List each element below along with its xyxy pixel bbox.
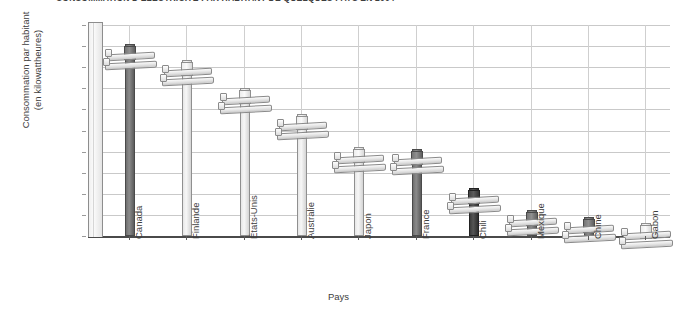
y-axis-tick-mark [82,173,86,174]
x-axis-tick-mark [645,236,646,240]
pole-insulator [447,202,454,210]
pole-insulator [564,222,571,230]
x-axis-tick-mark [531,236,532,240]
gridline [96,25,670,26]
x-axis-tick-mark [301,236,302,240]
y-axis-title: Consommation par habitant (en kilowatthe… [20,0,44,165]
pole-insulator [334,152,341,160]
x-axis-category-text: Japon [362,213,373,241]
x-axis-tick-mark [473,236,474,240]
pole-insulator [332,161,339,169]
pole-insulator [218,102,225,110]
y-axis-tick-mark [82,194,86,195]
y-axis-tick-mark [82,215,86,216]
y-axis-tick-mark [82,131,86,132]
x-axis-tick-mark [244,236,245,240]
pole-insulator [507,215,514,223]
pole-insulator [220,93,227,101]
pole-insulator [275,128,282,136]
pole-crossarm [564,234,616,244]
category-gridline [588,25,589,236]
pole-insulator [160,74,167,82]
x-axis-category-text: Chine [592,214,603,241]
x-axis-tick-mark [129,236,130,240]
x-axis-category-text: Finlande [190,203,201,241]
pole-insulator [619,237,626,245]
pole-insulator [390,163,397,171]
x-axis-category-text: Mexique [535,203,546,241]
pole-insulator [103,58,110,66]
x-axis-category-text: France [420,209,431,241]
x-axis-category-text: Chili [477,221,488,241]
pole-insulator [562,231,569,239]
y-axis-tick-mark [82,236,86,237]
x-axis-title: Pays [0,291,677,302]
category-gridline [645,25,646,236]
y-axis-pole [88,22,103,237]
pole-insulator [505,224,512,232]
pole-insulator [277,119,284,127]
x-axis-category-text: Canada [133,206,144,241]
y-axis-tick-mark [82,46,86,47]
x-axis-tick-mark [186,236,187,240]
pole-crossarm [621,240,673,250]
x-axis-tick-mark [588,236,589,240]
pole-insulator [392,154,399,162]
x-axis-category-text: États-Unis [248,195,259,241]
x-axis-category-text: Australie [305,202,316,241]
gridline [96,46,670,47]
y-axis-tick-mark [82,109,86,110]
pole-insulator [621,228,628,236]
pole-insulator [105,49,112,57]
chart-container: CONSOMMATION D'ÉLECTRICITÉ PAR HABITANT … [0,0,677,315]
pole-insulator [449,193,456,201]
y-axis-tick-mark [82,67,86,68]
x-axis-category-text: Gabon [649,210,660,241]
category-gridline [531,25,532,236]
y-axis-tick-mark [82,25,86,26]
x-axis-tick-mark [416,236,417,240]
chart-title: CONSOMMATION D'ÉLECTRICITÉ PAR HABITANT … [56,0,395,3]
pole-insulator [162,65,169,73]
x-axis-tick-mark [358,236,359,240]
y-axis-tick-mark [82,152,86,153]
y-axis-tick-mark [82,88,86,89]
